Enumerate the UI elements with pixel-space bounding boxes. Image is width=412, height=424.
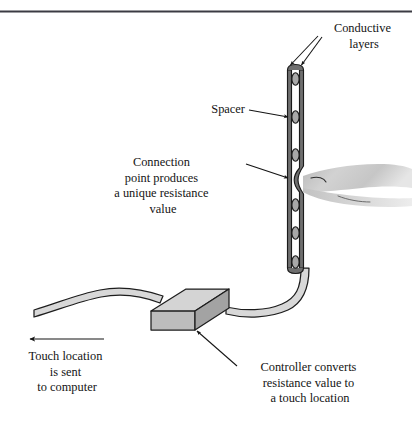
- connection-point-label: Connection point produces a unique resis…: [114, 155, 211, 216]
- touchscreen-panel: [288, 65, 304, 274]
- spacer-label: Spacer: [211, 102, 246, 116]
- figure-root: Conductive layers Spacer Connection poin…: [0, 0, 412, 424]
- controller-box: [151, 289, 229, 330]
- touch-location-label: Touch location is sent to computer: [29, 349, 106, 394]
- controller-leader: [197, 331, 237, 366]
- finger-touching-screen: [303, 164, 412, 207]
- conductive-layers-leader-front: [302, 37, 323, 65]
- touchscreen-diagram: Conductive layers Spacer Connection poin…: [0, 0, 412, 424]
- conductive-layers-label: Conductive layers: [334, 21, 394, 51]
- spacer-leader: [249, 110, 288, 117]
- controller-label: Controller converts resistance value to …: [260, 360, 359, 405]
- connection-point-leader: [246, 164, 288, 178]
